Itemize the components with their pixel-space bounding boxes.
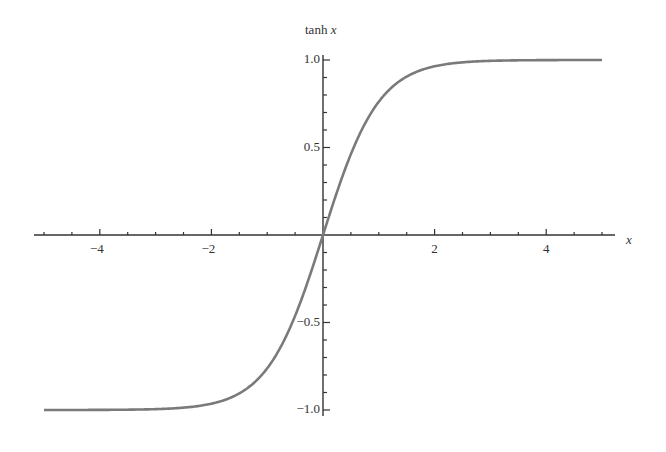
x-tick-label: −2: [201, 241, 215, 257]
x-tick-label: 4: [543, 241, 550, 257]
y-tick-label: 0.5: [304, 139, 320, 155]
y-axis-label: tanh x: [305, 22, 336, 38]
x-axis-label: x: [626, 232, 632, 248]
x-tick-label: 2: [431, 241, 438, 257]
y-tick-label: −0.5: [296, 314, 320, 330]
x-tick-label: −4: [90, 241, 104, 257]
y-tick-label: 1.0: [304, 51, 320, 67]
tanh-plot: [0, 0, 666, 452]
y-tick-label: −1.0: [296, 401, 320, 417]
axes: [34, 55, 615, 416]
